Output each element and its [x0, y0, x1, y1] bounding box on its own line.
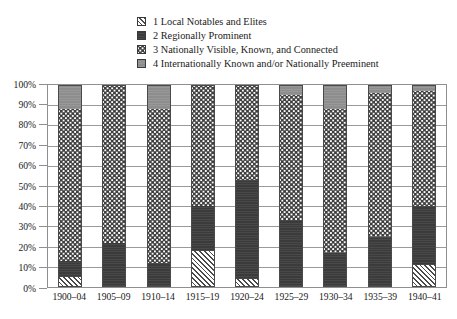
bar-segment-international: [59, 85, 81, 109]
legend-item: 4 Internationally Known and/or Nationall…: [137, 57, 437, 71]
x-axis-tick-label: 1925–29: [269, 291, 313, 302]
legend-item-label: 1 Local Notables and Elites: [153, 16, 267, 27]
x-axis-tick-label: 1910–14: [136, 291, 180, 302]
y-axis-tick-mark: [39, 124, 47, 125]
y-axis-tick: 20%: [18, 241, 47, 253]
y-axis-tick: 30%: [18, 221, 47, 233]
bar-segment-national: [192, 85, 214, 206]
bar-segment-regional: [236, 180, 258, 279]
stacked-bar[interactable]: [191, 85, 215, 287]
y-axis-tick: 100%: [14, 78, 47, 90]
bar-segment-national: [324, 109, 346, 252]
y-axis-tick-mark: [39, 186, 47, 187]
bar-segment-local: [59, 277, 81, 287]
y-axis-tick-mark: [39, 206, 47, 207]
y-axis-tick-mark: [39, 84, 47, 85]
bar-segment-regional: [413, 206, 435, 265]
x-axis-tick-label: 1940–41: [403, 291, 447, 302]
bar-segment-international: [280, 85, 302, 95]
stacked-bar[interactable]: [412, 85, 436, 287]
bar-slot: [136, 85, 180, 287]
y-axis-tick-label: 50%: [18, 181, 36, 192]
bar-segment-regional: [59, 261, 81, 277]
bar-segment-regional: [280, 220, 302, 287]
stacked-bar[interactable]: [323, 85, 347, 287]
y-axis-tick-label: 0%: [23, 283, 36, 294]
y-axis-tick-label: 60%: [18, 160, 36, 171]
legend-item: 3 Nationally Visible, Known, and Connect…: [137, 42, 437, 56]
bar-slot: [402, 85, 446, 287]
stacked-bar[interactable]: [102, 85, 126, 287]
bar-segment-regional: [148, 263, 170, 287]
y-axis: 100%90%80%70%60%50%40%30%20%10%0%: [0, 84, 47, 288]
bar-slot: [92, 85, 136, 287]
legend-item-label: 4 Internationally Known and/or Nationall…: [153, 58, 379, 69]
bar-slot: [313, 85, 357, 287]
y-axis-tick-mark: [39, 226, 47, 227]
y-axis-tick-label: 80%: [18, 119, 36, 130]
dotted-swatch-icon: [137, 45, 146, 54]
y-axis-tick-label: 90%: [18, 99, 36, 110]
x-axis-tick-label: 1900–04: [47, 291, 91, 302]
x-axis-tick-label: 1920–24: [225, 291, 269, 302]
y-axis-tick-mark: [39, 267, 47, 268]
stacked-bar[interactable]: [368, 85, 392, 287]
y-axis-tick: 70%: [18, 139, 47, 151]
bar-segment-local: [192, 251, 214, 287]
y-axis-tick-mark: [39, 145, 47, 146]
stacked-bar[interactable]: [279, 85, 303, 287]
y-axis-tick-mark: [39, 247, 47, 248]
y-axis-tick: 0%: [23, 282, 47, 294]
bar-slot: [269, 85, 313, 287]
legend-item-label: 2 Regionally Prominent: [153, 30, 251, 41]
bar-segment-local: [236, 279, 258, 287]
bar-segment-national: [236, 85, 258, 180]
bar-group: [48, 85, 446, 287]
y-axis-tick: 80%: [18, 119, 47, 131]
stacked-bar[interactable]: [147, 85, 171, 287]
y-axis-tick: 90%: [18, 98, 47, 110]
y-axis-tick: 40%: [18, 200, 47, 212]
bar-slot: [358, 85, 402, 287]
x-axis-tick-label: 1930–34: [314, 291, 358, 302]
y-axis-tick-label: 100%: [14, 79, 36, 90]
legend-item: 1 Local Notables and Elites: [137, 14, 437, 28]
y-axis-tick-label: 10%: [18, 262, 36, 273]
gray-swatch-icon: [137, 59, 146, 68]
bar-segment-international: [324, 85, 346, 109]
bar-segment-national: [280, 95, 302, 220]
y-axis-tick-mark: [39, 165, 47, 166]
x-axis-tick-label: 1935–39: [358, 291, 402, 302]
bar-slot: [181, 85, 225, 287]
plot-area: [47, 84, 447, 288]
bar-segment-national: [59, 109, 81, 261]
bar-segment-regional: [103, 243, 125, 287]
y-axis-tick: 10%: [18, 262, 47, 274]
y-axis-tick-label: 30%: [18, 221, 36, 232]
x-axis: 1900–041905–091910–141915–191920–241925–…: [47, 291, 447, 302]
chart-legend: 1 Local Notables and Elites2 Regionally …: [137, 14, 437, 71]
bar-segment-regional: [192, 206, 214, 250]
dark-swatch-icon: [137, 31, 146, 40]
bar-segment-local: [413, 265, 435, 287]
y-axis-tick-mark: [39, 288, 47, 289]
bar-segment-international: [369, 85, 391, 93]
stacked-bar[interactable]: [58, 85, 82, 287]
y-axis-tick-label: 20%: [18, 242, 36, 253]
stacked-bar[interactable]: [235, 85, 259, 287]
bar-segment-national: [413, 91, 435, 206]
bar-segment-national: [148, 109, 170, 263]
bar-segment-regional: [324, 253, 346, 287]
y-axis-tick-mark: [39, 104, 47, 105]
y-axis-tick-label: 40%: [18, 201, 36, 212]
x-axis-tick-label: 1905–09: [91, 291, 135, 302]
legend-item-label: 3 Nationally Visible, Known, and Connect…: [153, 44, 338, 55]
legend-item: 2 Regionally Prominent: [137, 28, 437, 42]
bar-segment-national: [369, 93, 391, 236]
hatch-swatch-icon: [137, 17, 146, 26]
y-axis-tick: 60%: [18, 160, 47, 172]
bar-segment-national: [103, 85, 125, 243]
y-axis-tick: 50%: [18, 180, 47, 192]
x-axis-tick-label: 1915–19: [180, 291, 224, 302]
bar-slot: [48, 85, 92, 287]
